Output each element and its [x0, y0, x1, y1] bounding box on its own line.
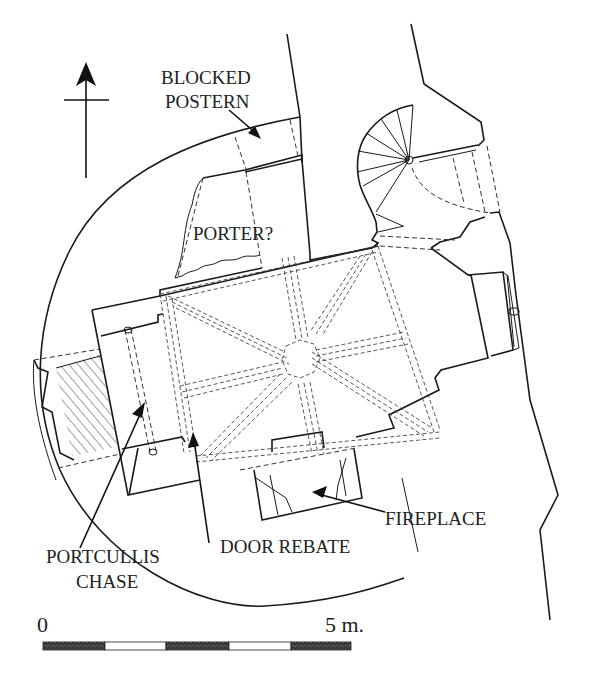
floor-plan: BLOCKED POSTERN PORTER? FIREPLACE DOOR R… — [0, 0, 592, 688]
label-door-rebate: DOOR REBATE — [220, 536, 350, 557]
gate-entrance — [33, 349, 120, 480]
label-portcullis-line2: CHASE — [76, 571, 138, 592]
label-porter: PORTER? — [193, 223, 273, 244]
scale-start-label: 0 — [37, 612, 48, 637]
scale-end-label: 5 m. — [325, 612, 364, 637]
fireplace — [240, 432, 362, 520]
label-blocked-postern-line2: POSTERN — [165, 91, 250, 112]
spiral-stair — [357, 105, 500, 245]
scale-bar: 0 5 m. — [37, 612, 364, 650]
north-arrow-icon — [64, 62, 109, 178]
vault-ribs — [160, 246, 440, 462]
portcullis-chase — [124, 327, 157, 455]
label-blocked-postern-line1: BLOCKED — [161, 67, 251, 88]
east-wall — [380, 212, 558, 620]
label-fireplace: FIREPLACE — [385, 508, 486, 529]
north-range-walls — [245, 24, 484, 170]
label-portcullis-line1: PORTCULLIS — [46, 546, 160, 567]
